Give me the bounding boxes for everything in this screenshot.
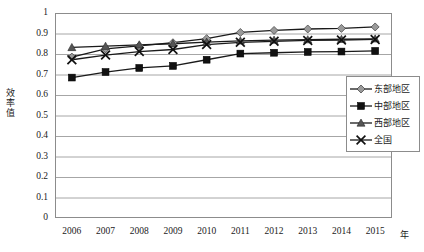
y-axis-tick-label: 0.5 (18, 111, 48, 120)
y-axis-title-char-2: 率 (2, 98, 18, 108)
x-axis-tick-label: 2012 (257, 226, 291, 236)
data-point-square (237, 50, 244, 57)
data-point-square (102, 69, 109, 76)
y-axis-tick-label: 0.8 (18, 49, 48, 58)
y-axis-tick-label: 1 (18, 8, 48, 17)
x-axis-tick-label: 2007 (89, 226, 123, 236)
data-point-square (304, 49, 311, 56)
data-point-diamond (304, 25, 312, 33)
y-axis-tick-label: 0.6 (18, 90, 48, 99)
y-axis-tick-label: 0.9 (18, 29, 48, 38)
data-point-square (203, 56, 210, 63)
data-point-diamond (371, 23, 379, 31)
chart-figure: 效 率 值 10.90.80.70.60.50.40.30.20.10 2006… (0, 0, 424, 252)
diamond-marker-icon (349, 82, 373, 96)
x-axis-tick-label: 2015 (358, 226, 392, 236)
data-point-diamond (337, 24, 345, 32)
y-axis-tick-label: 0.1 (18, 193, 48, 202)
legend-item-label: 全国 (373, 133, 392, 146)
x-axis-unit-label: 年 (400, 228, 409, 241)
y-axis-tick-label: 0 (18, 213, 48, 222)
data-point-square (338, 48, 345, 55)
y-axis-tick-label: 0.2 (18, 172, 48, 181)
y-axis-title-char-3: 值 (2, 108, 18, 118)
x-axis-tick-label: 2006 (55, 226, 89, 236)
legend-item-label: 西部地区 (373, 116, 410, 129)
triangle-marker-icon (349, 116, 373, 130)
x-axis-tick-label: 2011 (223, 226, 257, 236)
plot-area (55, 13, 392, 218)
x-axis-tick-label: 2008 (122, 226, 156, 236)
y-axis-title-char-1: 效 (2, 88, 18, 98)
plot-svg (55, 13, 392, 218)
series-markers (68, 48, 378, 81)
data-point-square (68, 74, 75, 81)
data-point-diamond (357, 85, 365, 93)
legend-item-triangle[interactable]: 西部地区 (349, 114, 417, 131)
data-point-square (372, 48, 379, 55)
data-point-diamond (236, 28, 244, 36)
y-axis-tick-label: 0.7 (18, 70, 48, 79)
legend-item-square[interactable]: 中部地区 (349, 97, 417, 114)
x-axis-tick-label: 2009 (156, 226, 190, 236)
data-point-square (136, 65, 143, 72)
legend-item-label: 东部地区 (373, 82, 410, 95)
data-point-square (358, 102, 365, 109)
legend-item-diamond[interactable]: 东部地区 (349, 80, 417, 97)
data-point-square (271, 49, 278, 56)
y-axis-title: 效 率 值 (2, 88, 18, 118)
y-axis-tick-label: 0.4 (18, 131, 48, 140)
data-point-square (170, 62, 177, 69)
x-axis-tick-label: 2013 (291, 226, 325, 236)
square-marker-icon (349, 99, 373, 113)
legend-item-cross[interactable]: 全国 (349, 131, 417, 148)
data-point-diamond (270, 26, 278, 34)
x-axis-tick-label: 2010 (190, 226, 224, 236)
cross-marker-icon (349, 133, 373, 147)
x-axis-tick-label: 2014 (324, 226, 358, 236)
chart-legend: 东部地区中部地区西部地区全国 (346, 76, 420, 152)
y-axis-tick-label: 0.3 (18, 152, 48, 161)
legend-item-label: 中部地区 (373, 99, 410, 112)
